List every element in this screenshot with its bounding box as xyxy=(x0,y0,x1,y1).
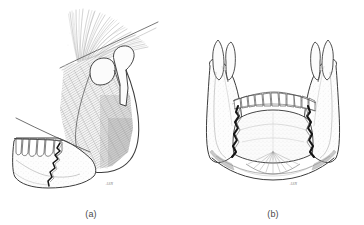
left-coronoid-process xyxy=(213,40,224,80)
tooth-row xyxy=(234,93,315,111)
panel-b-anterior-view: ASN (b) xyxy=(182,0,364,225)
panel-a-drawing: ASN xyxy=(0,0,182,225)
artist-signature: ASN xyxy=(105,182,113,186)
coronoid-process xyxy=(90,58,115,85)
panel-b-drawing: ASN xyxy=(182,0,364,225)
right-coronoid-process xyxy=(322,40,333,80)
temporalis-muscle-fibers xyxy=(68,9,148,64)
panel-a-caption: (a) xyxy=(0,209,182,219)
panel-b-caption: (b) xyxy=(182,209,364,219)
right-condyle xyxy=(311,42,321,80)
artist-signature: ASN xyxy=(289,182,297,186)
figure-root: ASN (a) xyxy=(0,0,364,225)
panel-a-lateral-view: ASN (a) xyxy=(0,0,182,225)
tooth-row xyxy=(16,139,62,156)
left-condyle xyxy=(226,42,236,80)
